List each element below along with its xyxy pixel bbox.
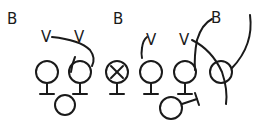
center [106,61,128,94]
defender-b-left: B [7,10,17,28]
defender-v-1: V [41,28,52,46]
defender-b-middle: B [113,10,123,28]
back-left [55,95,75,115]
defender-v-3: V [146,31,157,49]
route-right-curve [232,15,251,68]
play-diagram: B B B V V V V [0,0,260,128]
route-b-to-lineman5 [195,19,212,70]
defender-b-right: B [211,9,221,27]
lineman-1 [36,61,58,94]
lineman-5 [174,61,196,94]
lineman-4 [140,61,162,94]
back-right [160,93,199,119]
defender-v-4: V [179,31,190,49]
route-lineman2-arc [71,57,75,72]
